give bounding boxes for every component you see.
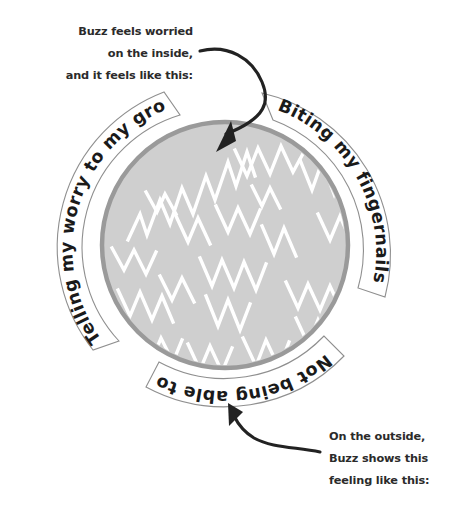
inside-callout-line-3: and it feels like this:: [66, 69, 193, 82]
inside-callout-line-1: Buzz feels worried: [78, 25, 193, 38]
outside-callout-line-3: feeling like this:: [329, 474, 429, 487]
outside-callout-line-1: On the outside,: [329, 430, 425, 443]
inside-callout-line-2: on the inside,: [108, 47, 193, 60]
worry-wheel-figure: Biting my fingernails Not being able to …: [0, 0, 452, 508]
outside-behavior-callout: On the outside, Buzz shows this feeling …: [329, 430, 429, 487]
feeling-circle: [102, 122, 348, 368]
inside-feeling-callout: Buzz feels worried on the inside, and it…: [66, 25, 193, 82]
outside-callout-line-2: Buzz shows this: [329, 452, 429, 465]
arrow-curved-up-left-icon: [228, 403, 320, 452]
